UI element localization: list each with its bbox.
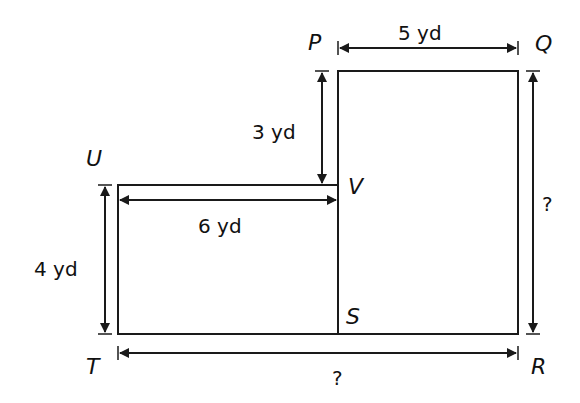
dimension-pv (315, 71, 329, 183)
dimension-tr (118, 346, 518, 360)
composite-figure-diagram: P Q U V S T R 5 yd 3 yd 6 yd 4 yd ? ? (0, 0, 580, 403)
point-label-r: R (531, 354, 546, 379)
dimension-label-qr: ? (542, 192, 553, 216)
tall-rectangle-pqrs (338, 71, 518, 334)
dimension-label-ut: 4 yd (34, 257, 78, 281)
point-label-u: U (86, 146, 102, 171)
point-label-q: Q (535, 31, 552, 56)
short-rectangle-uvst (118, 185, 338, 334)
dimension-label-uv: 6 yd (198, 214, 242, 238)
dimension-qr (526, 71, 540, 334)
dimension-label-tr: ? (332, 366, 343, 390)
point-label-t: T (86, 354, 101, 379)
dimension-ut (98, 185, 112, 334)
dimension-label-pq: 5 yd (398, 21, 442, 45)
point-label-v: V (348, 174, 365, 199)
dimension-label-pv: 3 yd (252, 120, 296, 144)
point-label-p: P (308, 30, 322, 55)
point-label-s: S (346, 304, 360, 329)
